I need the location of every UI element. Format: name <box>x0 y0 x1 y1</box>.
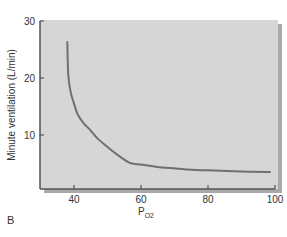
x-tick-label: 100 <box>267 194 284 205</box>
y-tick-label: 30 <box>24 16 36 27</box>
x-tick-label: 40 <box>68 194 80 205</box>
x-tick-label: 60 <box>135 194 147 205</box>
x-axis-label: PO2 <box>138 206 154 219</box>
chart: 102030 406080100 Minute ventilation (L/m… <box>0 0 287 237</box>
x-tick-label: 80 <box>202 194 214 205</box>
y-tick-label: 20 <box>24 73 36 84</box>
plot-area <box>40 20 278 189</box>
y-tick-label: 10 <box>24 130 36 141</box>
panel-label: B <box>7 214 14 226</box>
y-axis-label: Minute ventilation (L/min) <box>6 49 17 161</box>
